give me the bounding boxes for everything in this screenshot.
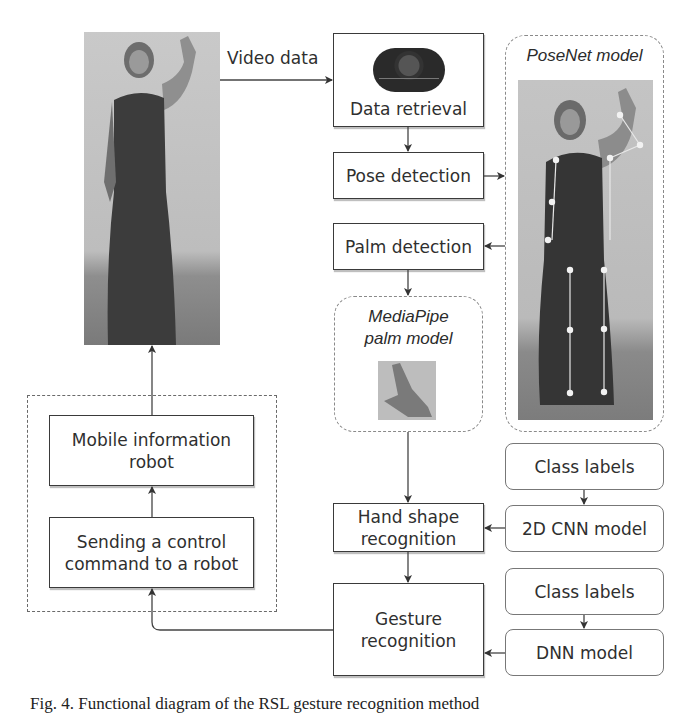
video-data-label: Video data xyxy=(227,48,318,68)
send-command-label-line2: command to a robot xyxy=(65,553,238,575)
person-silhouette xyxy=(84,32,220,345)
pose-detection-label: Pose detection xyxy=(346,165,471,187)
gesture-label-line1: Gesture xyxy=(375,608,442,630)
send-command-label-line1: Sending a control xyxy=(77,531,226,553)
webcam-icon xyxy=(373,48,445,92)
mobile-robot-label-line1: Mobile information xyxy=(72,429,231,451)
mediapipe-model-title: MediaPipe palm model xyxy=(334,306,483,350)
pose-skeleton xyxy=(518,80,653,420)
data-retrieval-box: Data retrieval xyxy=(333,33,484,127)
mobile-robot-box: Mobile information robot xyxy=(49,415,254,486)
class-labels-label-1: Class labels xyxy=(534,457,634,477)
mobile-robot-label-line2: robot xyxy=(129,451,174,473)
gesture-recognition-box: Gesture recognition xyxy=(333,583,484,676)
palm-detection-box: Palm detection xyxy=(333,223,484,270)
class-labels-box-1: Class labels xyxy=(505,443,664,490)
class-labels-label-2: Class labels xyxy=(534,582,634,602)
hand-photo xyxy=(378,361,436,420)
gesture-label-line2: recognition xyxy=(361,630,457,652)
figure-caption: Fig. 4. Functional diagram of the RSL ge… xyxy=(30,694,479,714)
class-labels-box-2: Class labels xyxy=(505,568,664,615)
posenet-model-title: PoseNet model xyxy=(505,45,664,67)
cnn-model-box: 2D CNN model xyxy=(505,505,664,552)
mediapipe-title-line1: MediaPipe xyxy=(334,306,483,328)
hand-shape-label-line2: recognition xyxy=(361,528,457,550)
dnn-model-label: DNN model xyxy=(536,643,633,663)
cnn-model-label: 2D CNN model xyxy=(522,519,647,539)
dnn-model-box: DNN model xyxy=(505,629,664,676)
palm-detection-label: Palm detection xyxy=(345,236,472,258)
mediapipe-title-line2: palm model xyxy=(334,328,483,350)
hand-shape-recognition-box: Hand shape recognition xyxy=(333,503,484,552)
pose-detection-box: Pose detection xyxy=(333,152,484,199)
data-retrieval-label: Data retrieval xyxy=(350,98,467,120)
person-photo xyxy=(84,32,220,345)
hand-shape-label-line1: Hand shape xyxy=(358,506,459,528)
send-command-box: Sending a control command to a robot xyxy=(49,517,254,588)
hand-shape xyxy=(378,361,436,420)
posenet-person-photo xyxy=(518,80,653,420)
